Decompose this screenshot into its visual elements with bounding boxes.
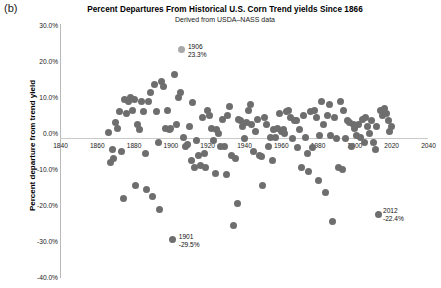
y-axis-line xyxy=(60,24,61,278)
scatter-point xyxy=(361,139,368,146)
scatter-point xyxy=(302,134,309,141)
scatter-point xyxy=(331,114,338,121)
point-annotation: 2012-22.4% xyxy=(383,207,404,223)
scatter-point xyxy=(388,123,395,130)
scatter-point xyxy=(189,99,196,106)
scatter-point xyxy=(339,166,346,173)
annotation-year: 1901 xyxy=(179,233,200,241)
y-tick-label: 20.0% xyxy=(14,58,58,65)
scatter-point xyxy=(129,107,136,114)
scatter-point xyxy=(186,123,193,130)
scatter-point xyxy=(212,170,219,177)
annotation-year: 1906 xyxy=(188,43,207,51)
scatter-point xyxy=(296,126,303,133)
scatter-point xyxy=(221,143,228,150)
scatter-point xyxy=(114,125,121,132)
scatter-point xyxy=(224,112,231,119)
scatter-point xyxy=(272,134,279,141)
scatter-point xyxy=(293,117,300,124)
scatter-point xyxy=(305,168,312,175)
scatter-point xyxy=(259,182,266,189)
scatter-point xyxy=(149,193,156,200)
scatter-point xyxy=(140,108,147,115)
scatter-point xyxy=(298,164,305,171)
scatter-point xyxy=(324,112,331,119)
scatter-point xyxy=(265,143,272,150)
scatter-point xyxy=(322,189,329,196)
scatter-point xyxy=(177,89,184,96)
scatter-point xyxy=(143,186,150,193)
scatter-point xyxy=(252,128,259,135)
point-annotation: 190623.3% xyxy=(188,43,207,59)
scatter-point xyxy=(372,146,379,153)
scatter-point xyxy=(326,101,333,108)
scatter-point xyxy=(155,139,162,146)
scatter-point xyxy=(234,200,241,207)
scatter-point xyxy=(142,150,149,157)
scatter-point xyxy=(375,211,382,218)
scatter-point xyxy=(164,107,171,114)
x-tick-label: 1840 xyxy=(41,142,81,149)
scatter-point xyxy=(261,114,268,121)
y-tick-label: -40.0% xyxy=(14,274,58,281)
x-tick-label: 2040 xyxy=(409,142,441,149)
scatter-point xyxy=(132,182,139,189)
scatter-point xyxy=(145,98,152,105)
scatter-point xyxy=(199,114,206,121)
x-tick-label: 2000 xyxy=(335,142,375,149)
scatter-point xyxy=(304,150,311,157)
scatter-point xyxy=(184,141,191,148)
scatter-point xyxy=(131,96,138,103)
scatter-point xyxy=(281,130,288,137)
scatter-point xyxy=(311,107,318,114)
scatter-point xyxy=(247,101,254,108)
scatter-point xyxy=(320,121,327,128)
scatter-point xyxy=(153,108,160,115)
scatter-point xyxy=(348,143,355,150)
scatter-point xyxy=(147,89,154,96)
scatter-point xyxy=(160,83,167,90)
annotation-value: -22.4% xyxy=(383,215,404,223)
scatter-point xyxy=(178,46,185,53)
scatter-point xyxy=(294,144,301,151)
scatter-point xyxy=(329,218,336,225)
x-tick-label: 1980 xyxy=(298,142,338,149)
y-tick-label: 0.0% xyxy=(14,130,58,137)
x-tick-label: 1940 xyxy=(225,142,265,149)
chart-subtitle: Derived from USDA–NASS data xyxy=(60,15,390,24)
point-annotation: 1901-29.5% xyxy=(179,233,200,249)
scatter-point xyxy=(383,110,390,117)
scatter-point xyxy=(340,107,347,114)
scatter-point xyxy=(315,177,322,184)
scatter-point xyxy=(201,150,208,157)
scatter-point xyxy=(300,112,307,119)
scatter-point xyxy=(373,123,380,130)
scatter-point xyxy=(276,110,283,117)
scatter-point xyxy=(188,157,195,164)
chart-title: Percent Departures From Historical U.S. … xyxy=(60,5,390,15)
annotation-year: 2012 xyxy=(383,207,404,215)
scatter-point xyxy=(180,134,187,141)
y-tick-label: 30.0% xyxy=(14,22,58,29)
scatter-point xyxy=(215,130,222,137)
scatter-point xyxy=(138,98,145,105)
y-tick-label: 10.0% xyxy=(14,94,58,101)
annotation-value: -29.5% xyxy=(179,241,200,249)
scatter-point xyxy=(105,129,112,136)
scatter-point xyxy=(118,148,125,155)
scatter-point xyxy=(206,112,213,119)
scatter-point xyxy=(210,137,217,144)
scatter-point xyxy=(226,103,233,110)
scatter-point xyxy=(337,98,344,105)
scatter-point xyxy=(223,171,230,178)
scatter-point xyxy=(285,107,292,114)
scatter-point xyxy=(110,155,117,162)
y-tick-label: -20.0% xyxy=(14,202,58,209)
scatter-point xyxy=(171,71,178,78)
scatter-point xyxy=(151,81,158,88)
scatter-point xyxy=(202,164,209,171)
y-tick-label: -10.0% xyxy=(14,166,58,173)
scatter-point xyxy=(318,98,325,105)
scatter-point xyxy=(120,195,127,202)
